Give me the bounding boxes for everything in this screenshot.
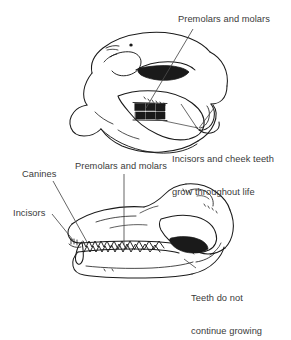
annotation-bottom-growth-note: Teeth do not continue growing: [191, 270, 262, 340]
annotation-bottom-premolars: Premolars and molars: [75, 161, 167, 172]
annotation-bottom-growth-note-line2: continue growing: [191, 326, 262, 337]
annotation-top-growth-note: Incisors and cheek teeth grow throughout…: [172, 131, 274, 221]
annotation-top-growth-note-line2: grow throughout life: [172, 187, 274, 198]
rodent-foramen-dot: [129, 44, 132, 47]
annotation-top-premolars: Premolars and molars: [178, 14, 270, 25]
annotation-incisors: Incisors: [13, 208, 45, 219]
annotation-top-growth-note-line1: Incisors and cheek teeth: [172, 154, 274, 165]
annotation-bottom-growth-note-line1: Teeth do not: [191, 293, 262, 304]
annotation-canines: Canines: [22, 169, 56, 180]
